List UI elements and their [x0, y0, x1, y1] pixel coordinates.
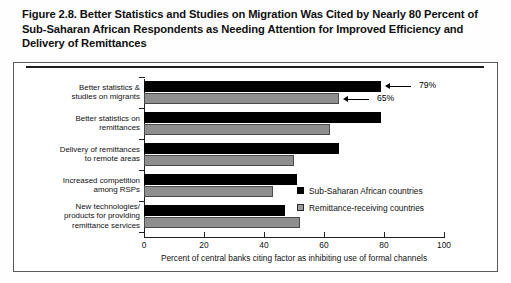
- bar-1-0: [144, 93, 339, 104]
- x-tick-5: [444, 232, 445, 238]
- category-label-2-line-0: Delivery of remittances: [12, 145, 140, 154]
- bar-1-2: [144, 155, 294, 166]
- category-label-1-line-0: Better statistics on: [12, 114, 140, 123]
- category-label-3-line-0: Increased competition: [12, 176, 140, 185]
- bar-0-1: [144, 112, 381, 123]
- category-label-1: Better statistics on remittances: [12, 114, 140, 133]
- y-tick-3: [139, 170, 145, 171]
- annotation-arrowline-1: [347, 99, 369, 100]
- x-tick-label-2: 40: [259, 240, 268, 250]
- category-label-3: Increased competition among RSPs: [12, 176, 140, 195]
- x-axis-line: [144, 237, 445, 238]
- legend-swatch-dark-icon: [297, 187, 304, 194]
- bar-0-2: [144, 143, 339, 154]
- x-tick-label-4: 80: [379, 240, 388, 250]
- annotation-label-0: 79%: [419, 80, 436, 90]
- category-label-4: New technologies/ products for providing…: [12, 202, 140, 230]
- bar-1-3: [144, 186, 273, 197]
- figure-title: Figure 2.8. Better Statistics and Studie…: [22, 7, 492, 51]
- category-label-0: Better statistics & studies on migrants: [12, 83, 140, 102]
- x-tick-label-5: 100: [437, 240, 451, 250]
- bar-1-1: [144, 124, 330, 135]
- category-label-2: Delivery of remittances to remote areas: [12, 145, 140, 164]
- annotation-label-1: 65%: [377, 93, 394, 103]
- annotation-arrowline-0: [389, 86, 411, 87]
- x-tick-label-0: 0: [142, 240, 147, 250]
- legend-label-0: Sub-Saharan African countries: [309, 186, 423, 196]
- y-tick-1: [139, 108, 145, 109]
- category-label-0-line-1: studies on migrants: [12, 92, 140, 101]
- category-label-4-line-0: New technologies/: [12, 202, 140, 211]
- title-divider: [26, 66, 484, 68]
- category-label-1-line-1: remittances: [12, 123, 140, 132]
- bar-1-4: [144, 217, 300, 228]
- y-tick-0: [139, 77, 145, 78]
- bar-0-0: [144, 81, 381, 92]
- y-tick-4: [139, 201, 145, 202]
- category-label-4-line-2: remittance services: [12, 221, 140, 230]
- legend: Sub-Saharan African countries Remittance…: [297, 186, 447, 220]
- bar-0-4: [144, 205, 285, 216]
- x-tick-label-1: 20: [199, 240, 208, 250]
- legend-swatch-light-icon: [297, 204, 304, 211]
- bar-0-3: [144, 174, 297, 185]
- x-axis-title: Percent of central banks citing factor a…: [144, 253, 444, 263]
- legend-item-1: Remittance-receiving countries: [297, 203, 447, 213]
- x-tick-1: [204, 232, 205, 238]
- x-tick-0: [144, 232, 145, 238]
- category-label-4-line-1: products for providing: [12, 211, 140, 220]
- category-label-0-line-0: Better statistics &: [12, 83, 140, 92]
- x-tick-2: [264, 232, 265, 238]
- legend-label-1: Remittance-receiving countries: [309, 203, 424, 213]
- x-tick-label-3: 60: [319, 240, 328, 250]
- legend-item-0: Sub-Saharan African countries: [297, 186, 447, 196]
- figure-page: Figure 2.8. Better Statistics and Studie…: [0, 0, 511, 283]
- x-tick-4: [384, 232, 385, 238]
- category-label-3-line-1: among RSPs: [12, 185, 140, 194]
- x-tick-3: [324, 232, 325, 238]
- category-label-2-line-1: to remote areas: [12, 154, 140, 163]
- category-labels: Better statistics & studies on migrants …: [8, 80, 140, 236]
- y-tick-2: [139, 139, 145, 140]
